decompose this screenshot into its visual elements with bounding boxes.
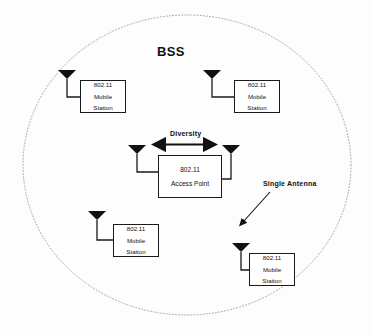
antenna-bottom-right-station [232,243,250,270]
access-point-label-line1: 802.11 [180,163,200,176]
station-label-line3: Station [93,102,112,113]
single-antenna-arrow [243,192,270,222]
access-point[interactable]: 802.11 Access Point [158,155,222,198]
antenna-top-left-station [58,70,80,97]
mobile-station-bottom-right[interactable]: 802.11 Mobile Station [249,253,295,286]
mobile-station-top-left[interactable]: 802.11 Mobile Station [80,80,126,113]
single-antenna-annotation-label: Single Antenna [263,180,317,188]
station-label-line3: Station [262,275,281,286]
station-label-line2: Mobile [127,235,145,246]
antenna-access-point-right [222,145,240,179]
station-label-line1: 802.11 [94,79,112,90]
station-label-line2: Mobile [263,264,281,275]
station-label-line3: Station [247,102,266,113]
diagram-canvas: BSS 802.11 Mobile Station 802.11 Mobile … [0,0,374,336]
mobile-station-bottom-left[interactable]: 802.11 Mobile Station [113,224,159,257]
mobile-station-top-right[interactable]: 802.11 Mobile Station [234,80,280,113]
station-label-line1: 802.11 [263,252,281,263]
station-label-line3: Station [126,246,145,257]
antenna-access-point-left [128,145,158,172]
antenna-top-right-station [203,70,234,97]
access-point-label-line2: Access Point [171,177,209,190]
diversity-annotation-label: Diversity [170,130,201,138]
station-label-line1: 802.11 [127,223,145,234]
page-title: BSS [157,44,185,59]
station-label-line2: Mobile [94,91,112,102]
station-label-line2: Mobile [248,91,266,102]
station-label-line1: 802.11 [248,79,266,90]
antenna-bottom-left-station [88,211,113,240]
